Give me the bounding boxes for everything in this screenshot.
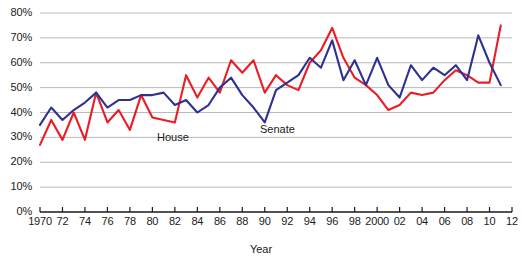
x-axis-title: Year xyxy=(0,243,522,255)
y-axis-tick-label: 20% xyxy=(0,155,32,167)
y-axis-tick-label: 50% xyxy=(0,81,32,93)
y-axis-tick-label: 10% xyxy=(0,180,32,192)
y-axis-tick-label: 80% xyxy=(0,6,32,18)
series-label-house: House xyxy=(157,131,189,143)
x-axis-tick-label: 12 xyxy=(495,215,522,227)
chart-plot-area xyxy=(0,0,522,272)
gridlines xyxy=(40,13,512,187)
y-axis-tick-label: 40% xyxy=(0,106,32,118)
chart-container: 0%10%20%30%40%50%60%70%80% 1970727476788… xyxy=(0,0,522,272)
y-axis-tick-label: 30% xyxy=(0,130,32,142)
y-axis-tick-label: 60% xyxy=(0,56,32,68)
y-axis-tick-label: 70% xyxy=(0,31,32,43)
series-label-senate: Senate xyxy=(260,123,295,135)
series-line-senate xyxy=(40,35,501,125)
